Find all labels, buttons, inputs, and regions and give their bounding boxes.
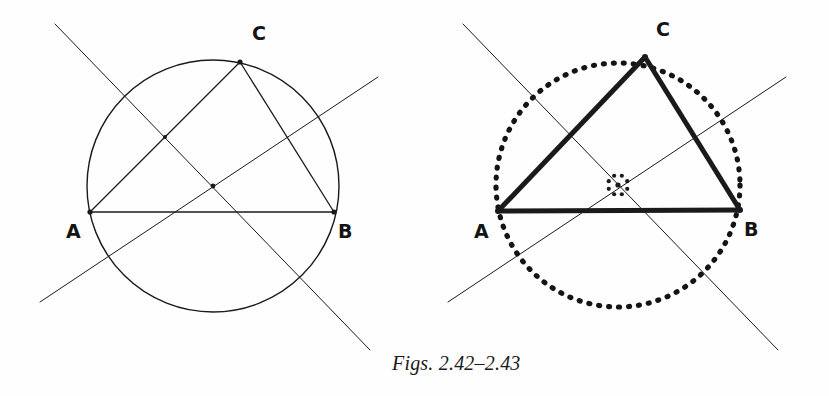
figure-caption: Figs. 2.42–2.43 — [392, 352, 521, 375]
label-c-right: C — [656, 20, 670, 39]
circumcenter-ring-dot-5 — [607, 179, 611, 183]
fig-2-42-circumcenter-dot — [211, 184, 216, 189]
figure-page: A B C A B C Figs. 2.42–2.43 — [0, 0, 829, 396]
figure-canvas — [0, 0, 829, 396]
label-a-right: A — [474, 222, 489, 241]
fig-2-42-vertex-c-dot — [237, 59, 242, 64]
fig-2-43-vertex-b-dot — [737, 207, 743, 213]
circumcenter-ring-dot-2 — [620, 192, 624, 196]
circumcenter-ring-dot-6 — [612, 174, 616, 178]
fig-2-43-side-ac — [498, 57, 645, 211]
fig-2-43-side-cb — [645, 57, 740, 210]
circumcenter-ring-dot-4 — [607, 187, 611, 191]
label-b-right: B — [744, 220, 758, 239]
label-a-left: A — [66, 222, 81, 241]
circumcenter-ring-dot-7 — [620, 174, 624, 178]
label-b-left: B — [338, 222, 352, 241]
fig-2-42-bisector-of-ab — [40, 77, 378, 302]
fig-2-42-vertex-b-dot — [331, 209, 336, 214]
right-figure — [448, 24, 786, 350]
fig-2-43-vertex-a-dot — [495, 208, 501, 214]
label-c-left: C — [252, 24, 266, 43]
fig-2-43-vertex-c-dot — [642, 54, 648, 60]
fig-2-42-midpoint-ac-dot — [163, 135, 167, 139]
fig-2-43-side-ab — [498, 210, 740, 211]
circumcenter-ring-dot-0 — [625, 179, 629, 183]
fig-2-42-vertex-a-dot — [87, 209, 92, 214]
circumcenter-ring-dot-3 — [612, 192, 616, 196]
fig-2-43-circumcenter-dot — [615, 182, 620, 187]
circumcenter-ring-dot-1 — [625, 187, 629, 191]
fig-2-43-bisector-of-ab — [448, 77, 786, 302]
left-figure — [40, 24, 378, 350]
